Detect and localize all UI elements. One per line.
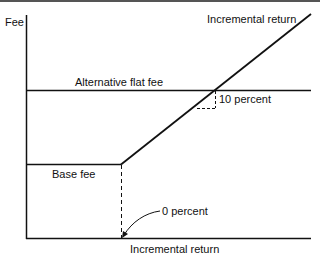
incremental-return-line bbox=[121, 14, 311, 165]
fee-structure-diagram: Fee Incremental return Alternative flat … bbox=[0, 0, 320, 261]
origin-label: 0 percent bbox=[162, 205, 208, 217]
flat-fee-label: Alternative flat fee bbox=[75, 76, 163, 88]
y-axis-label: Fee bbox=[5, 16, 24, 28]
origin-arrow bbox=[124, 211, 160, 235]
base-fee-label: Base fee bbox=[52, 168, 95, 180]
line-label: Incremental return bbox=[207, 13, 296, 25]
arrow-head-icon bbox=[122, 231, 128, 238]
diagram-canvas bbox=[0, 0, 320, 261]
slope-label: 10 percent bbox=[219, 93, 271, 105]
x-axis-label: Incremental return bbox=[130, 243, 219, 255]
